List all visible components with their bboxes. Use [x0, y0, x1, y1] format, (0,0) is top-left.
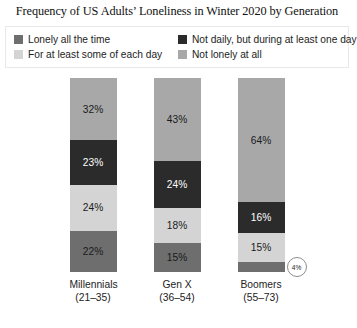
bar-segment[interactable]: 15%	[238, 233, 285, 262]
x-axis-tick-name: Millennials	[70, 278, 117, 291]
bar-segment[interactable]: 22%	[70, 231, 117, 272]
chart-legend: Lonely all the time Not daily, but durin…	[5, 26, 349, 68]
legend-item-label: Not lonely at all	[192, 49, 262, 61]
bar-segment[interactable]: 43%	[154, 78, 201, 161]
chart-plot-area: 32% 23% 24% 22% 43% 24% 18% 15% 64% 16%	[0, 78, 354, 272]
bar-segment[interactable]: 18%	[154, 208, 201, 243]
bar-segment-label: 24%	[167, 179, 187, 190]
status-badge: 4%	[287, 257, 307, 277]
bar-segment[interactable]: 4%	[238, 262, 285, 272]
x-axis-tick-name: Gen X	[154, 278, 201, 291]
bar-segment-label: 64%	[251, 135, 271, 146]
legend-item-not-lonely-at-all[interactable]: Not lonely at all	[178, 49, 357, 61]
page-title: Frequency of US Adults’ Loneliness in Wi…	[0, 0, 354, 18]
x-axis-tick-millennials: Millennials (21–35)	[70, 278, 117, 304]
bar-segment-label: 18%	[167, 220, 187, 231]
x-axis-tick-boomers: Boomers (55–73)	[238, 278, 285, 304]
x-axis-tick-genx: Gen X (36–54)	[154, 278, 201, 304]
bar-segment[interactable]: 23%	[70, 140, 117, 185]
callout-label: 4%	[292, 264, 302, 271]
bar-segment[interactable]: 32%	[70, 78, 117, 140]
legend-item-label: For at least some of each day	[28, 49, 162, 61]
bar-column-millennials[interactable]: 32% 23% 24% 22%	[70, 78, 117, 272]
x-axis-tick-range: (55–73)	[238, 291, 285, 304]
bar-segment[interactable]: 15%	[154, 243, 201, 272]
bar-segment-label: 15%	[251, 242, 271, 253]
bar-segment[interactable]: 16%	[238, 202, 285, 233]
bar-segment[interactable]: 24%	[154, 161, 201, 208]
bar-segment-label: 32%	[83, 104, 103, 115]
legend-swatch-icon	[14, 50, 23, 59]
legend-item-for-at-least-some-of-each-day[interactable]: For at least some of each day	[14, 49, 178, 61]
legend-swatch-icon	[178, 50, 187, 59]
bar-segment-label: 15%	[167, 252, 187, 263]
legend-item-not-daily-but-during-at-least-one-day[interactable]: Not daily, but during at least one day	[178, 34, 357, 46]
bar-segment-label: 22%	[83, 246, 103, 257]
bar-column-genx[interactable]: 43% 24% 18% 15%	[154, 78, 201, 272]
x-axis-tick-name: Boomers	[238, 278, 285, 291]
legend-item-lonely-all-the-time[interactable]: Lonely all the time	[14, 34, 178, 46]
legend-swatch-icon	[14, 35, 23, 44]
x-axis-tick-range: (36–54)	[154, 291, 201, 304]
legend-item-label: Lonely all the time	[28, 34, 110, 46]
bar-segment-label: 24%	[83, 202, 103, 213]
bar-segment-label: 23%	[83, 157, 103, 168]
bar-segment-label: 43%	[167, 114, 187, 125]
legend-item-label: Not daily, but during at least one day	[192, 34, 357, 46]
x-axis-tick-labels: Millennials (21–35) Gen X (36–54) Boomer…	[0, 278, 354, 304]
bar-column-boomers[interactable]: 64% 16% 15% 4% 4%	[238, 78, 285, 272]
bar-segment[interactable]: 24%	[70, 185, 117, 232]
legend-swatch-icon	[178, 35, 187, 44]
x-axis-tick-range: (21–35)	[70, 291, 117, 304]
bar-segment-label: 16%	[251, 212, 271, 223]
bar-segment[interactable]: 64%	[238, 78, 285, 202]
